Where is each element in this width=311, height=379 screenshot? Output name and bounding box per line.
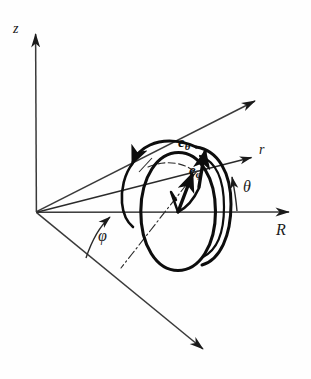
axis-z-line <box>36 34 37 212</box>
band-left-arc <box>122 163 133 227</box>
hidden-dashdot-line <box>121 171 197 268</box>
diagram-canvas <box>0 0 311 379</box>
e-phi-subscript: φ <box>196 168 202 180</box>
coordinate-system-diagram: z R r θ φ eθ eφ <box>0 0 311 379</box>
e-theta-subscript: θ <box>185 140 191 152</box>
angle-label-phi: φ <box>98 228 107 244</box>
angle-label-theta: θ <box>243 179 251 195</box>
theta-arc <box>232 177 237 211</box>
unit-vector-label-e-phi: eφ <box>189 163 202 180</box>
e-theta-base: e <box>178 134 185 150</box>
e-phi-base: e <box>189 162 196 178</box>
construction-lines <box>121 153 197 268</box>
axis-label-R: R <box>276 222 286 238</box>
axis-label-r: r <box>259 143 264 157</box>
axis-label-z: z <box>13 22 18 36</box>
unit-vector-label-e-theta: eθ <box>178 135 190 152</box>
axis-lower-diagonal <box>37 213 203 349</box>
axis-upper-diagonal <box>37 101 256 212</box>
